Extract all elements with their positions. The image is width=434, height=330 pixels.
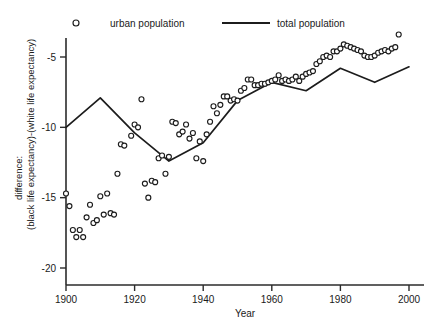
x-tick-label: 2000 [398,294,421,305]
legend-label-total-population: total population [277,18,345,29]
x-tick-label: 1940 [192,294,215,305]
y-axis-title-line1: difference: [13,156,24,200]
urban-population-data-point [160,153,165,158]
urban-population-data-point [184,122,189,127]
urban-population-data-point [242,85,247,90]
x-tick-label: 1980 [329,294,352,305]
y-tick-label: -20 [42,263,57,274]
urban-population-data-point [214,111,219,116]
urban-population-data-point [105,191,110,196]
urban-population-data-point [249,77,254,82]
urban-population-data-point [67,204,72,209]
urban-population-data-point [98,194,103,199]
urban-population-data-point [153,180,158,185]
y-tick-label: -15 [42,192,57,203]
urban-population-data-point [393,45,398,50]
urban-population-data-point [115,171,120,176]
y-tick-label: -10 [42,122,57,133]
urban-population-data-point [310,69,315,74]
chart-figure: urban population total population -5-10-… [0,0,434,330]
x-axis-ticks: 190019201940196019802000 [55,285,421,305]
urban-population-data-point [166,154,171,159]
y-tick-label: -5 [47,52,56,63]
urban-population-data-point [77,228,82,233]
urban-population-data-point [197,139,202,144]
urban-population-points-layer [64,32,402,240]
urban-population-data-point [396,32,401,37]
urban-population-data-point [64,191,69,196]
total-population-line-layer [66,67,409,161]
urban-population-data-point [112,212,117,217]
urban-population-data-point [139,97,144,102]
total-population-line [66,67,409,161]
urban-population-data-point [122,143,127,148]
urban-population-data-point [81,235,86,240]
urban-population-data-point [74,235,79,240]
urban-population-data-point [180,129,185,134]
urban-population-data-point [201,159,206,164]
urban-population-data-point [101,212,106,217]
y-axis-ticks: -5-10-15-20 [42,52,66,274]
urban-population-data-point [146,195,151,200]
x-tick-label: 1900 [55,294,78,305]
urban-population-data-point [190,130,195,135]
urban-population-data-point [142,181,147,186]
legend: urban population total population [73,18,345,29]
y-axis-title: difference: (black life expectancy)-(whi… [13,39,36,230]
urban-population-data-point [163,171,168,176]
y-axis-title-line2: (black life expectancy)-(white life expe… [25,39,36,230]
urban-population-data-point [328,55,333,60]
urban-population-data-point [276,73,281,78]
urban-population-data-point [173,121,178,126]
urban-population-data-point [70,228,75,233]
urban-population-data-point [194,156,199,161]
urban-population-data-point [136,125,141,130]
x-tick-label: 1920 [123,294,146,305]
life-expectancy-difference-chart: urban population total population -5-10-… [0,0,434,330]
plot-axes: -5-10-15-20 190019201940196019802000 [42,38,424,305]
urban-population-data-point [208,119,213,124]
x-tick-label: 1960 [261,294,284,305]
urban-population-data-point [218,102,223,107]
urban-population-data-point [211,104,216,109]
urban-population-data-point [235,98,240,103]
urban-population-data-point [129,133,134,138]
urban-population-data-point [187,136,192,141]
urban-population-data-point [204,132,209,137]
urban-population-data-point [84,215,89,220]
legend-marker-urban-population [73,20,79,26]
urban-population-data-point [88,202,93,207]
urban-population-data-point [94,218,99,223]
legend-label-urban-population: urban population [110,18,185,29]
x-axis-title: Year [235,308,256,319]
